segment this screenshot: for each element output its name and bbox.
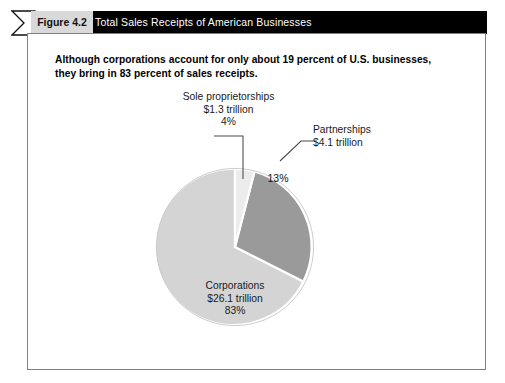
scan-footer-text xyxy=(270,374,502,383)
callout-partnerships-value: $4.1 trillion xyxy=(313,137,433,150)
slice-percent-partnerships: 13% xyxy=(258,172,298,185)
callout-corporations: Corporations $26.1 trillion 83% xyxy=(160,280,310,318)
callout-sole-proprietorships: Sole proprietorships $1.3 trillion 4% xyxy=(151,91,306,129)
callout-sole-percent: 4% xyxy=(151,116,306,129)
callout-corporations-name: Corporations xyxy=(160,280,310,293)
callout-corporations-value: $26.1 trillion xyxy=(160,293,310,306)
callout-sole-name: Sole proprietorships xyxy=(151,91,306,104)
figure-number-label: Figure 4.2 xyxy=(31,11,93,34)
figure-title: Total Sales Receipts of American Busines… xyxy=(95,11,312,34)
callout-partnerships-name: Partnerships xyxy=(313,124,433,137)
callout-partnerships: Partnerships $4.1 trillion xyxy=(313,124,433,149)
pie-chart xyxy=(28,34,485,369)
callout-sole-value: $1.3 trillion xyxy=(151,104,306,117)
figure-header: Figure 4.2 Total Sales Receipts of Ameri… xyxy=(0,11,505,34)
pie-chart-svg xyxy=(28,34,485,369)
callout-corporations-percent: 83% xyxy=(160,305,310,318)
figure-container: Figure 4.2 Total Sales Receipts of Ameri… xyxy=(0,0,505,383)
leader-line-partnerships xyxy=(280,141,315,161)
